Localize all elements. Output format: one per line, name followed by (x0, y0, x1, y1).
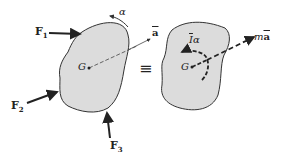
center-of-mass-label-left: G (78, 62, 86, 72)
ma-label: ma (254, 27, 270, 43)
diagram-canvas (0, 0, 282, 160)
center-of-mass-label-right: G (181, 62, 189, 72)
alpha-label: α (119, 7, 126, 17)
force-f2-label: F2 (11, 100, 24, 111)
force-f1-arrow (49, 33, 80, 34)
force-f3-arrow (107, 113, 110, 138)
left-rigid-body (59, 23, 128, 112)
force-f2-arrow (27, 92, 57, 103)
center-of-mass-point-right (191, 66, 194, 69)
accel-arrow (128, 39, 150, 50)
moment-label: Iα (189, 35, 200, 45)
force-f3-label: F3 (110, 140, 123, 151)
center-of-mass-point-left (88, 67, 91, 70)
force-f1-label: F1 (35, 26, 48, 37)
accel-label: a (152, 28, 158, 38)
equivalence-symbol: ≡ (139, 61, 152, 77)
